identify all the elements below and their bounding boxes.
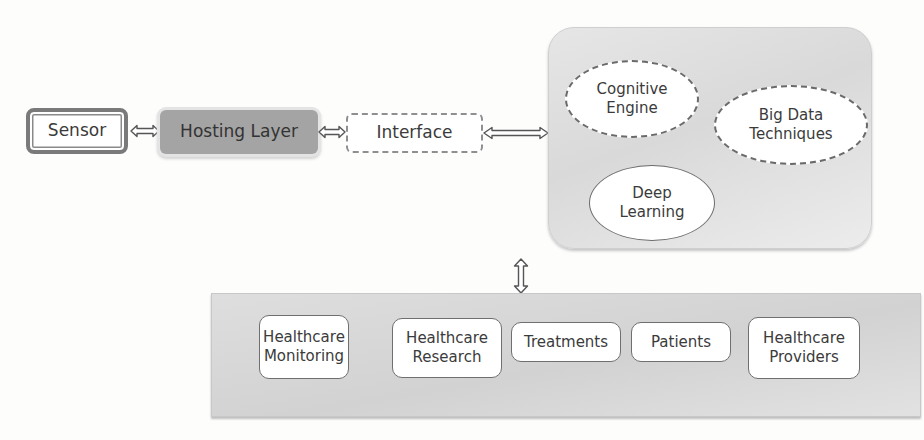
- app-healthcare-research: Healthcare Research: [392, 318, 502, 378]
- app-label-line1: Patients: [651, 333, 711, 352]
- app-label-line1: Healthcare: [263, 328, 345, 347]
- cognitive-engine-label-line2: Engine: [596, 99, 667, 118]
- sensor-box: Sensor: [26, 108, 128, 154]
- app-label-line2: Research: [406, 348, 488, 367]
- double-arrow-icon: [483, 126, 549, 140]
- interface-label: Interface: [376, 122, 452, 143]
- cognitive-engine-label-line1: Cognitive: [596, 80, 667, 99]
- cognitive-engine-node: Cognitive Engine: [565, 60, 699, 138]
- app-healthcare-providers: Healthcare Providers: [748, 317, 860, 379]
- app-healthcare-monitoring: Healthcare Monitoring: [259, 315, 349, 379]
- sensor-label: Sensor: [48, 120, 106, 141]
- big-data-label-line2: Techniques: [749, 125, 832, 144]
- double-arrow-icon: [318, 125, 346, 139]
- double-arrow-icon: [130, 124, 160, 138]
- hosting-layer-label: Hosting Layer: [180, 121, 298, 142]
- app-patients: Patients: [631, 322, 731, 362]
- deep-learning-label-line1: Deep: [619, 184, 684, 203]
- interface-box: Interface: [346, 113, 483, 153]
- hosting-layer-box: Hosting Layer: [160, 110, 318, 154]
- big-data-label-line1: Big Data: [749, 106, 832, 125]
- app-label-line1: Healthcare: [406, 329, 488, 348]
- big-data-techniques-node: Big Data Techniques: [714, 85, 868, 165]
- app-label-line1: Treatments: [524, 333, 608, 352]
- vertical-double-arrow-icon: [513, 258, 529, 294]
- app-label-line2: Monitoring: [263, 347, 345, 366]
- deep-learning-node: Deep Learning: [589, 165, 715, 241]
- deep-learning-label-line2: Learning: [619, 203, 684, 222]
- app-treatments: Treatments: [511, 322, 621, 362]
- app-label-line2: Providers: [763, 348, 845, 367]
- app-label-line1: Healthcare: [763, 329, 845, 348]
